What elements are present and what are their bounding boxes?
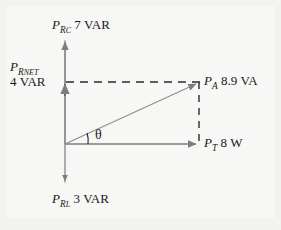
label-prc-value: 7 [74,17,81,32]
label-prl-unit: VAR [83,191,109,206]
label-prc-unit: VAR [84,17,110,32]
label-prl-symbol: P [52,191,60,206]
label-net-reactive-power-value: 4 VAR [10,75,46,88]
label-prl-subscript2: L [66,200,70,209]
label-pt-unit: W [230,135,242,150]
label-prc-symbol: P [52,17,60,32]
label-apparent-power: PA 8.9 VA [204,74,258,91]
phase-angle-arc [87,133,88,144]
label-true-power: PT 8 W [204,136,242,153]
label-pa-unit: VA [240,73,257,88]
label-prc-subscript2: C [66,26,71,35]
label-prnet-unit: VAR [20,74,46,89]
label-pt-value: 8 [220,135,227,150]
vector-apparent-power [65,84,196,144]
label-prnet-symbol: P [10,59,18,74]
label-pt-symbol: P [204,135,212,150]
label-prnet-value: 4 [10,74,17,89]
label-pa-value: 8.9 [221,73,237,88]
label-inductive-reactive-power: PRL 3 VAR [52,192,109,209]
label-capacitive-reactive-power: PRC 7 VAR [52,18,110,35]
label-pt-subscript: T [212,143,217,153]
label-pa-subscript: A [212,81,218,91]
vector-diagram-canvas [0,0,281,230]
label-phase-angle: θ [95,128,102,142]
label-pa-symbol: P [204,73,212,88]
power-triangle-figure: PRC 7 VAR PRNET 4 VAR PA 8.9 VA PT 8 W P… [0,0,281,230]
label-prl-value: 3 [73,191,80,206]
